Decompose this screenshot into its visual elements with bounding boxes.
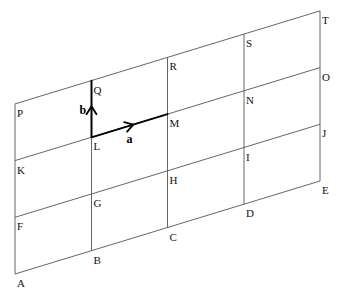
point-label-M: M xyxy=(170,117,180,129)
point-label-F: F xyxy=(17,220,23,232)
point-label-A: A xyxy=(17,277,25,289)
point-label-O: O xyxy=(322,71,330,83)
point-label-G: G xyxy=(94,197,102,209)
point-label-B: B xyxy=(94,254,101,266)
point-label-P: P xyxy=(17,107,23,119)
vector-grid-diagram: ab ABCDEFGHIJKLMNOPQRST xyxy=(0,0,338,297)
point-label-I: I xyxy=(246,151,250,163)
point-label-R: R xyxy=(170,60,178,72)
point-label-S: S xyxy=(246,37,252,49)
point-label-E: E xyxy=(322,184,329,196)
point-label-D: D xyxy=(246,207,254,219)
vector-a-label: a xyxy=(127,132,133,146)
point-label-K: K xyxy=(17,164,25,176)
point-label-C: C xyxy=(170,231,177,243)
point-label-L: L xyxy=(94,140,101,152)
point-label-N: N xyxy=(246,94,254,106)
vector-b-label: b xyxy=(80,103,87,117)
point-label-Q: Q xyxy=(94,84,102,96)
point-label-J: J xyxy=(322,127,327,139)
point-label-H: H xyxy=(170,174,178,186)
grid-lines xyxy=(15,11,320,274)
point-label-T: T xyxy=(322,14,329,26)
